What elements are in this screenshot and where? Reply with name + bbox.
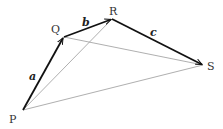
vector-label-a: a [29, 70, 36, 83]
vector-label-b: b [82, 16, 90, 29]
line-p-r [23, 19, 112, 110]
line-p-s [23, 65, 203, 110]
line-q-s [64, 37, 203, 65]
point-label-s: S [207, 60, 215, 73]
point-label-r: R [109, 5, 118, 18]
point-label-q: Q [51, 23, 60, 36]
vector-c [112, 19, 202, 65]
vector-diagram: P Q R S a b c [0, 0, 223, 129]
vector-label-c: c [150, 26, 157, 39]
point-label-p: P [9, 113, 17, 126]
